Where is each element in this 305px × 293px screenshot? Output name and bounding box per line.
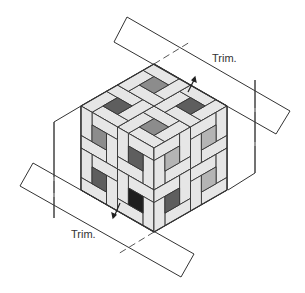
trim-label-top: Trim. [212, 52, 237, 64]
trim-label-bottom: Trim. [71, 228, 96, 240]
quilt-diagram [0, 0, 305, 293]
